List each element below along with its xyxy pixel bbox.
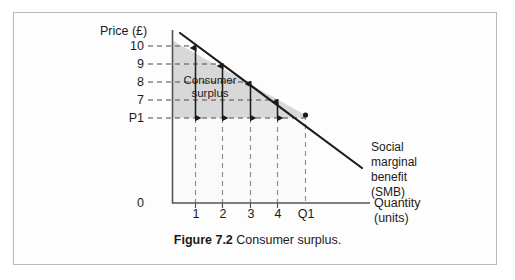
x-tick-label-q1: Q1 [294, 207, 318, 221]
figure-caption-text: Consumer surplus. [236, 233, 341, 247]
y-axis-title: Price (£) [100, 24, 147, 38]
x-tick-label-2: 2 [211, 207, 235, 221]
consumer-surplus-line2: surplus [176, 87, 244, 100]
x-axis-title-line2: (units) [374, 211, 421, 226]
y-tick-label-9: 9 [110, 57, 144, 71]
smb-line2: marginal [371, 155, 417, 170]
figure-border [13, 12, 497, 265]
x-tick-label-1: 1 [184, 207, 208, 221]
consumer-surplus-line1: Consumer [176, 74, 244, 87]
x-axis-title: Quantity (units) [374, 196, 421, 227]
x-tick-label-4: 4 [266, 207, 290, 221]
smb-line1: Social [371, 140, 417, 155]
x-tick-label-3: 3 [239, 207, 263, 221]
smb-line3: benefit [371, 170, 417, 185]
consumer-surplus-annotation: Consumer surplus [176, 74, 244, 100]
smb-annotation: Social marginal benefit (SMB) [371, 140, 417, 200]
origin-label: 0 [110, 196, 144, 210]
y-tick-label-8: 8 [110, 75, 144, 89]
y-tick-label-10: 10 [110, 39, 144, 53]
y-tick-label-7: 7 [110, 93, 144, 107]
figure-caption: Figure 7.2 Consumer surplus. [0, 233, 515, 247]
figure-container: Price (£) 10 9 8 7 P1 0 1 2 3 4 Q1 Consu… [0, 0, 515, 280]
figure-caption-number: Figure 7.2 [174, 233, 233, 247]
x-axis-title-line1: Quantity [374, 196, 421, 211]
y-tick-label-p1: P1 [110, 111, 144, 125]
